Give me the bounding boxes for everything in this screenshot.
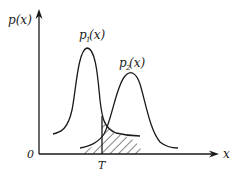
diagram-canvas: p(x) x 0 T p 1 (x) p 2 (x)	[0, 0, 235, 177]
diagram-svg: p(x) x 0 T p 1 (x) p 2 (x)	[0, 0, 235, 177]
curve-p2-label: p 2 (x)	[119, 56, 145, 72]
curve-p1	[53, 48, 140, 136]
svg-text:(x): (x)	[129, 56, 145, 70]
axes	[39, 14, 214, 154]
origin-label: 0	[27, 148, 34, 161]
svg-text:(x): (x)	[89, 28, 105, 42]
curve-p1-label: p 1 (x)	[79, 28, 105, 44]
threshold-label: T	[98, 159, 107, 172]
curve-p2	[80, 73, 178, 148]
x-axis-label: x	[223, 147, 230, 161]
y-axis-label: p(x)	[8, 13, 32, 27]
